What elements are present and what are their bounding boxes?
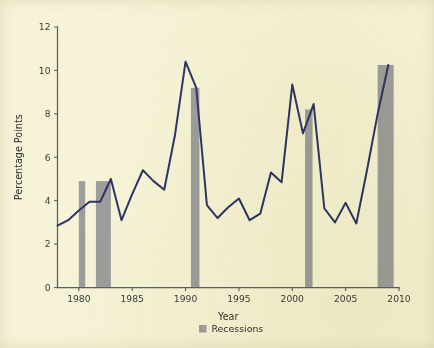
- x-tick-label: 2000: [281, 293, 305, 304]
- x-tick-label: 2010: [387, 293, 411, 304]
- recession-band: [305, 109, 312, 287]
- x-tick-label: 1980: [67, 293, 91, 304]
- legend-swatch-recessions: [199, 325, 207, 333]
- y-tick-label: 6: [45, 152, 51, 163]
- y-tick-label: 0: [45, 282, 51, 293]
- y-tick-label: 8: [45, 108, 51, 119]
- x-axis-title: Year: [217, 311, 238, 322]
- chart-axes: 024681012 1980198519901995200020052010: [39, 21, 411, 304]
- y-tick-label: 12: [39, 21, 51, 32]
- x-axis-ticks: 1980198519901995200020052010: [67, 288, 411, 305]
- y-axis-ticks: 024681012: [39, 21, 58, 293]
- x-tick-label: 1990: [174, 293, 198, 304]
- recession-band: [79, 181, 85, 287]
- chart-figure: 024681012 1980198519901995200020052010 P…: [0, 0, 434, 348]
- y-tick-label: 4: [45, 195, 51, 206]
- legend-label-recessions: Recessions: [212, 323, 264, 334]
- x-tick-label: 1985: [121, 293, 145, 304]
- recession-bands-group: [79, 65, 394, 288]
- percentage-points-line-chart: 024681012 1980198519901995200020052010 P…: [0, 0, 434, 348]
- chart-legend: Recessions: [199, 323, 263, 334]
- x-tick-label: 2005: [334, 293, 358, 304]
- x-tick-label: 1995: [227, 293, 251, 304]
- y-tick-label: 2: [45, 238, 51, 249]
- y-tick-label: 10: [39, 65, 51, 76]
- y-axis-title: Percentage Points: [13, 114, 24, 200]
